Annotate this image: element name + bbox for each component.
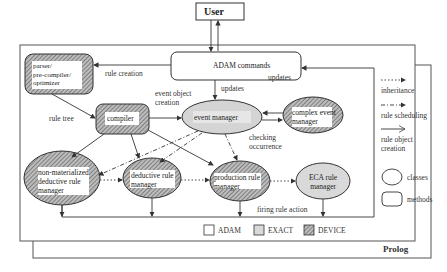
label-rule-creation: rule creation — [105, 69, 143, 78]
parser-node[interactable]: parser/ pre-compiler/ optimizer — [33, 62, 71, 88]
legend-methods: methods — [407, 195, 432, 204]
deductive-rule-manager-node[interactable]: deductive rule manager — [131, 171, 174, 189]
eca-rule-manager-node[interactable]: ECA rule manager — [309, 173, 337, 191]
user-label: User — [204, 6, 224, 17]
legend-inheritance: inheritance — [381, 86, 414, 95]
compiler-node[interactable]: compiler — [107, 114, 134, 123]
label-rule-tree: rule tree — [49, 114, 74, 123]
legend-exact: EXACT — [268, 226, 293, 235]
prolog-label: Prolog — [383, 244, 408, 254]
complex-event-manager-node[interactable]: complex event manager — [292, 108, 336, 126]
adam-commands-label[interactable]: ADAM commands — [213, 61, 270, 70]
label-updates-right: updates — [268, 73, 291, 82]
label-firing-rule-action: firing rule action — [257, 205, 307, 214]
legend-adam: ADAM — [218, 226, 241, 235]
label-event-object-creation: event object creation — [155, 89, 191, 107]
label-checking-occurrence: checking occurrence — [249, 133, 282, 151]
legend-device: DEVICE — [318, 226, 346, 235]
production-rule-manager-node[interactable]: production rule manager — [214, 173, 260, 191]
legend-rule-scheduling: rule scheduling — [381, 111, 427, 120]
label-updates-down: updates — [221, 84, 244, 93]
event-manager-node[interactable]: event manager — [194, 113, 238, 122]
legend-rule-object-creation: rule object creation — [381, 135, 413, 153]
non-materialized-node[interactable]: non-materialized deductive rule manager — [38, 168, 89, 195]
legend-classes: classes — [407, 173, 428, 182]
